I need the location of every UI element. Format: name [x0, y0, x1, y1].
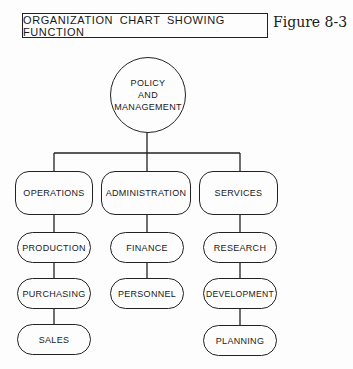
finance-node: FINANCE	[110, 232, 184, 263]
planning-label: PLANNING	[216, 336, 264, 346]
development-label: DEVELOPMENT	[206, 289, 274, 299]
sales-label: SALES	[39, 335, 70, 345]
root-line-3: MANAGEMENT	[114, 101, 182, 113]
services-label: SERVICES	[215, 188, 263, 198]
personnel-node: PERSONNEL	[110, 278, 184, 309]
operations-node: OPERATIONS	[15, 171, 93, 215]
production-label: PRODUCTION	[22, 243, 86, 253]
policy-management-node: POLICY AND MANAGEMENT	[110, 57, 186, 133]
development-node: DEVELOPMENT	[203, 278, 277, 309]
research-node: RESEARCH	[203, 232, 277, 263]
production-node: PRODUCTION	[17, 232, 91, 263]
administration-label: ADMINISTRATION	[106, 188, 187, 198]
root-line-2: AND	[138, 89, 158, 101]
personnel-label: PERSONNEL	[118, 289, 176, 299]
root-line-1: POLICY	[131, 77, 166, 89]
purchasing-node: PURCHASING	[17, 278, 91, 309]
research-label: RESEARCH	[214, 243, 266, 253]
finance-label: FINANCE	[126, 243, 168, 253]
purchasing-label: PURCHASING	[22, 289, 85, 299]
planning-node: PLANNING	[203, 325, 277, 356]
administration-node: ADMINISTRATION	[101, 171, 191, 215]
sales-node: SALES	[17, 324, 91, 355]
services-node: SERVICES	[199, 171, 278, 215]
operations-label: OPERATIONS	[23, 188, 84, 198]
